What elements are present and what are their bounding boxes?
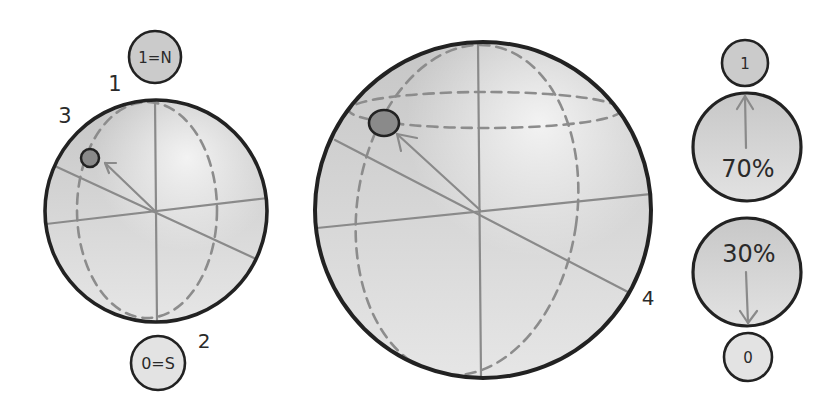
south-pole-label: 0=S [141, 354, 175, 373]
annotation-state-marker: 3 [58, 104, 71, 128]
outcome-zero-badge: 0 [724, 333, 772, 381]
outcome-one-label: 1 [740, 55, 750, 73]
outcome-zero-label: 0 [743, 349, 753, 367]
left-sphere [45, 100, 268, 322]
annotation-south-marker: 2 [198, 329, 211, 353]
lower-probability-ball: 30% [693, 218, 801, 326]
north-pole-label: 1=N [138, 49, 171, 67]
lower-ball-percent: 30% [722, 240, 775, 268]
annotation-north-marker: 1 [108, 72, 121, 96]
north-pole-badge: 1=N [129, 31, 181, 83]
bloch-sphere-diagram: 1=N 0=S 1 3 2 4 1 [0, 0, 839, 414]
annotation-axis-marker: 4 [642, 286, 655, 310]
outcome-one-badge: 1 [722, 40, 768, 86]
upper-probability-ball: 70% [693, 93, 801, 201]
upper-ball-percent: 70% [721, 155, 774, 183]
south-pole-badge: 0=S [131, 336, 185, 390]
